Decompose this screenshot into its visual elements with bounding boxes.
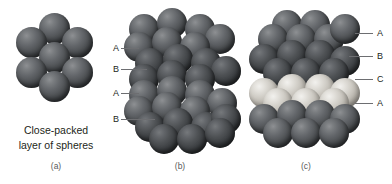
sphere-b-layerB2-7 <box>205 118 235 148</box>
panel-b-label-a-lower: A <box>113 89 119 98</box>
sphere-b-layerB2-5 <box>149 124 179 154</box>
panel-a-caption-letter: (a) <box>0 161 112 171</box>
sphere-a-bottom <box>39 71 70 102</box>
panel-c-label-a-top: A <box>377 29 383 38</box>
panel-c-leader-b <box>349 56 373 57</box>
panel-c-label-b: B <box>377 52 383 61</box>
panel-c-leader-a-bottom <box>355 103 373 104</box>
sphere-c-layerA2-6 <box>291 118 321 148</box>
panel-c-label-c: C <box>377 75 384 84</box>
panel-b-leader-b-bottom <box>121 119 155 120</box>
panel-b-label-a-top: A <box>113 44 119 53</box>
panel-c-label-a-bottom: A <box>377 99 383 108</box>
panel-b-leader-b-upper <box>121 69 147 70</box>
sphere-b-layerB2-6 <box>177 124 207 154</box>
close-packing-figure: Close-packed layer of spheres (a) <box>0 0 392 184</box>
sphere-c-layerA1-6 <box>330 14 360 44</box>
sphere-c-layerA2-7 <box>319 118 349 148</box>
panel-c-leader-c <box>355 79 373 80</box>
panel-b-caption-letter: (b) <box>140 161 220 171</box>
panel-a-caption-line1: Close-packed <box>0 123 112 137</box>
panel-b-leader-a-top <box>121 48 139 49</box>
panel-b-leader-a-lower <box>121 93 139 94</box>
panel-c-caption-letter: (c) <box>266 161 346 171</box>
sphere-c-layerA2-5 <box>263 118 293 148</box>
panel-b-label-b-bottom: B <box>113 115 119 124</box>
panel-a-caption-line2: layer of spheres <box>0 138 112 152</box>
sphere-b-layerB1-4 <box>211 56 241 86</box>
panel-c-leader-a-top <box>355 33 373 34</box>
panel-b-label-b-upper: B <box>113 65 119 74</box>
